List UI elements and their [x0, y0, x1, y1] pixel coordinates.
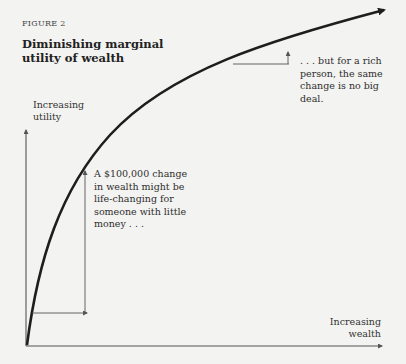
x-axis-label-line2: wealth	[330, 328, 381, 340]
annotation-high-wealth: . . . but for a rich person, the same ch…	[300, 55, 400, 105]
y-axis-label-line2: utility	[33, 111, 84, 123]
y-axis-label: Increasing utility	[33, 99, 84, 123]
y-axis-label-line1: Increasing	[33, 99, 84, 111]
annotation-low-wealth: A $100,000 change in wealth might be lif…	[94, 168, 194, 231]
x-axis-label-line1: Increasing	[330, 316, 381, 328]
x-axis-label: Increasing wealth	[330, 316, 381, 340]
